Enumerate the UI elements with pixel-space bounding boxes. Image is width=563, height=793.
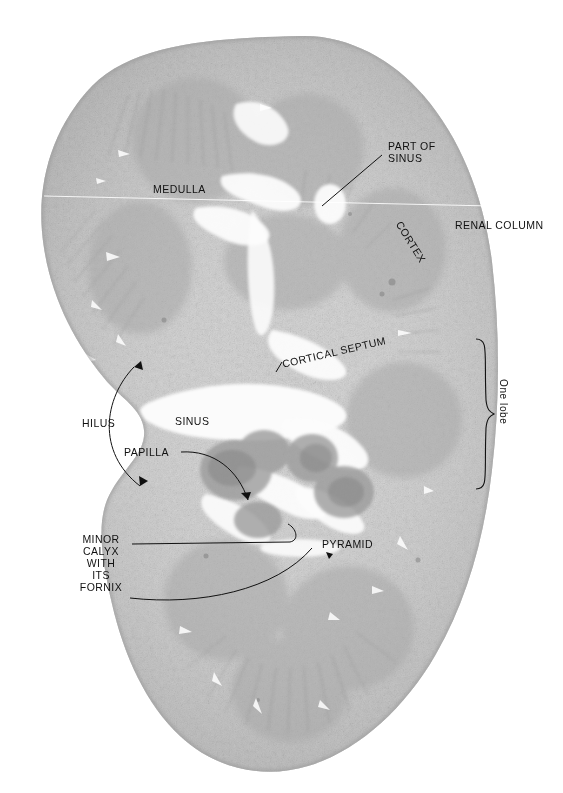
label-one-lobe: One lobe (497, 379, 509, 424)
arrowhead-hilus-upper (134, 361, 143, 370)
leader-fornix (130, 548, 312, 600)
label-renal-column: RENAL COLUMN (455, 219, 543, 231)
label-sinus: SINUS (175, 415, 209, 427)
label-minor-calyx-with-its-fornix: MINOR CALYX WITH ITS FORNIX (72, 533, 130, 593)
arrowhead-papilla (241, 492, 251, 500)
annotation-leaders (0, 0, 563, 793)
arrowhead-hilus-lower (139, 476, 148, 486)
leader-part-of-sinus (322, 155, 382, 206)
leader-cortical-septum (276, 362, 282, 372)
label-part-of-sinus: PART OF SINUS (388, 140, 436, 164)
brace-one-lobe (476, 339, 494, 489)
leader-papilla (181, 452, 248, 500)
label-papilla: PAPILLA (124, 446, 169, 458)
label-medulla: MEDULLA (153, 183, 206, 195)
leader-minor-calyx-upper (132, 524, 296, 544)
label-pyramid: PYRAMID (322, 538, 373, 550)
arrowhead-pyramid (326, 552, 333, 559)
label-hilus: HILUS (82, 417, 115, 429)
figure-canvas: MEDULLA PART OF SINUS RENAL COLUMN CORTE… (0, 0, 563, 793)
